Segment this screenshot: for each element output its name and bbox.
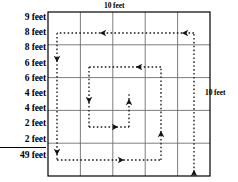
- grid-border: [48, 12, 210, 176]
- list-item: 4 feet: [0, 101, 46, 116]
- arrow-left-top-right: [182, 30, 188, 37]
- segment-lengths-list: 9 feet 8 feet 8 feet 6 feet 6 feet 4 fee…: [0, 10, 46, 163]
- arrow-down-inner-left: [86, 97, 93, 103]
- right-dimension-label: 10 feet: [205, 88, 225, 97]
- grid-lines: [48, 12, 210, 176]
- spiral-path-figure: 9 feet 8 feet 8 feet 6 feet 6 feet 4 fee…: [0, 0, 238, 182]
- list-item: 8 feet: [0, 25, 46, 40]
- list-item: 6 feet: [0, 71, 46, 86]
- list-item: 9 feet: [0, 10, 46, 25]
- list-item: 2 feet: [0, 116, 46, 131]
- spiral-dotted-path: [57, 33, 194, 176]
- list-item: 6 feet: [0, 56, 46, 71]
- list-item: 4 feet: [0, 86, 46, 101]
- path-arrowheads: [54, 30, 198, 177]
- top-dimension-label: 10 feet: [104, 1, 124, 10]
- arrow-down-left-lower: [54, 149, 61, 155]
- arrow-up-center-end: [126, 99, 133, 105]
- arrow-left-top-middle: [100, 30, 106, 37]
- arrow-right-bottom: [118, 157, 124, 164]
- list-item: 2 feet: [0, 132, 46, 147]
- list-item: 8 feet: [0, 40, 46, 55]
- total-length: 49 feet: [0, 147, 46, 163]
